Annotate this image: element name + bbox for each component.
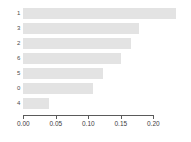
y-axis-tick-label: 2 (2, 38, 20, 49)
bar (23, 68, 102, 79)
plot-area (23, 8, 163, 111)
y-axis-tick-label: 4 (2, 98, 20, 109)
x-axis-tick-label: 0.20 (140, 120, 166, 127)
x-axis-tick (23, 115, 24, 119)
x-axis-tick-label: 0.05 (43, 120, 69, 127)
x-axis-tick-label: 0.10 (75, 120, 101, 127)
bar (23, 8, 175, 19)
x-axis-tick-label: 0.00 (10, 120, 36, 127)
y-axis-tick-label: 1 (2, 8, 20, 19)
x-axis-tick (88, 115, 89, 119)
y-axis-tick-label: 0 (2, 83, 20, 94)
bar (23, 38, 131, 49)
bar (23, 23, 138, 34)
y-axis-tick-label: 3 (2, 23, 20, 34)
bar (23, 98, 49, 109)
x-axis-tick (56, 115, 57, 119)
y-axis-tick-label: 6 (2, 53, 20, 64)
y-axis-labels: 1 3 2 6 5 0 4 (0, 8, 20, 111)
x-axis-tick-label: 0.15 (108, 120, 134, 127)
x-axis-ticks: 0.00 0.05 0.10 0.15 0.20 (23, 115, 153, 135)
x-axis-tick (121, 115, 122, 119)
bar-chart: 1 3 2 6 5 0 4 0.00 0.05 0.10 0.15 0.20 (0, 0, 191, 142)
y-axis-tick-label: 5 (2, 68, 20, 79)
x-axis-tick (153, 115, 154, 119)
bar (23, 83, 93, 94)
bar (23, 53, 121, 64)
